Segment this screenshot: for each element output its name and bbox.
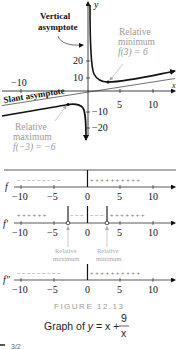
number-line-tick-label: 5 [117, 227, 122, 238]
relative-maximum-value: f(−3) = −6 [13, 142, 56, 153]
number-line-tick-label: 5 [117, 191, 122, 202]
relative-maximum-point [66, 103, 69, 106]
critical-point-circle [105, 221, 109, 225]
sign-chart-label: f″ [3, 274, 11, 285]
vertical-asymptote-pointer [58, 36, 83, 45]
y-tick-label: −20 [92, 122, 108, 133]
relative-minimum-value: f(3) = 6 [118, 47, 148, 58]
sign-row: + + + + + + – – – – – – + + + + + + + [17, 212, 145, 218]
relative-maximum-pointer [55, 106, 66, 121]
y-tick-label: −10 [92, 106, 108, 117]
y-axis-label: y [93, 0, 99, 10]
svg-text:– – –: – – – [70, 212, 84, 218]
slant-asymptote-label: Slant asymptote [3, 85, 66, 105]
footer-mark [0, 344, 5, 346]
relative-minimum-label: Relative [119, 27, 151, 37]
number-line-tick-label: −5 [47, 284, 58, 295]
svg-text:+ + + + + + + + + +: + + + + + + + + + + [90, 177, 141, 183]
fraction-denominator: x [121, 327, 127, 339]
number-line-tick-label: −10 [12, 227, 28, 238]
relative-maximum-note: Relative [55, 247, 77, 254]
relative-minimum-point [106, 80, 109, 83]
svg-text:– – – – – – – – –: – – – – – – – – – [17, 177, 61, 183]
number-line-tick-label: −5 [47, 191, 58, 202]
fraction-numerator: 9 [121, 312, 127, 324]
relative-maximum-label: maximum [13, 132, 52, 142]
sign-chart-f-double-prime: f″ – – – – – – – – – + + + + + + + + + +… [3, 264, 175, 295]
x-tick-label: 5 [117, 99, 122, 110]
y-tick-label: 20 [73, 55, 83, 66]
number-line-tick-label: 10 [148, 227, 158, 238]
number-line-tick-label: 10 [148, 191, 158, 202]
svg-text:+ + + + + + + + + +: + + + + + + + + + + [90, 270, 141, 276]
svg-text:+ + + + + + +: + + + + + + + [110, 212, 145, 218]
sign-row: – – – – – – – – – + + + + + + + + + + [17, 177, 141, 183]
sign-chart-f-prime: f′ + + + + + + – – – – – – + + + + + + +… [3, 206, 175, 262]
footer-text: 3/2 [11, 343, 21, 349]
relative-maximum-label: Relative [15, 122, 47, 132]
vertical-asymptote-label: Vertical [40, 11, 71, 21]
svg-text:Graph of y = x +: Graph of y = x + [44, 320, 119, 332]
svg-text:+ + + + + +: + + + + + + [17, 212, 47, 218]
relative-maximum-note: maximum [53, 255, 79, 262]
sign-chart-label: f′ [3, 218, 9, 229]
svg-text:– – –: – – – [90, 212, 104, 218]
number-line-tick-label: −10 [12, 191, 28, 202]
number-line-tick-label: −10 [12, 284, 28, 295]
figure-caption: Graph of y = x + 9 x [44, 312, 129, 339]
figure-number: FIGURE 12.13 [54, 302, 124, 311]
figure-canvas: y x −10 5 10 20 10 −10 −20 Vertical asym… [0, 0, 178, 349]
number-line-tick-label: −5 [47, 227, 58, 238]
relative-minimum-note: minimum [96, 255, 121, 262]
number-line-tick-label: 0 [85, 191, 90, 202]
relative-minimum-label: minimum [118, 37, 156, 47]
x-tick-label: −10 [11, 77, 27, 88]
svg-text:– – – – – – – – –: – – – – – – – – – [17, 270, 61, 276]
vertical-asymptote-label: asymptote [38, 22, 78, 32]
number-line-tick-label: 5 [117, 284, 122, 295]
x-axis-label: x [171, 81, 176, 90]
sign-chart-f: f – – – – – – – – – + + + + + + + + + + … [5, 170, 175, 202]
x-tick-label: 10 [148, 99, 158, 110]
y-tick-label: 10 [73, 72, 83, 83]
sign-row: – – – – – – – – – + + + + + + + + + + [17, 270, 141, 276]
number-line-tick-label: 0 [85, 284, 90, 295]
relative-minimum-pointer [110, 64, 123, 80]
number-line-tick-label: 10 [148, 284, 158, 295]
main-graph: y x −10 5 10 20 10 −10 −20 Vertical asym… [2, 0, 176, 153]
number-line-tick-label: 0 [85, 227, 90, 238]
sign-chart-label: f [5, 181, 9, 192]
critical-point-circle [66, 221, 70, 225]
relative-minimum-note: Relative [97, 247, 119, 254]
